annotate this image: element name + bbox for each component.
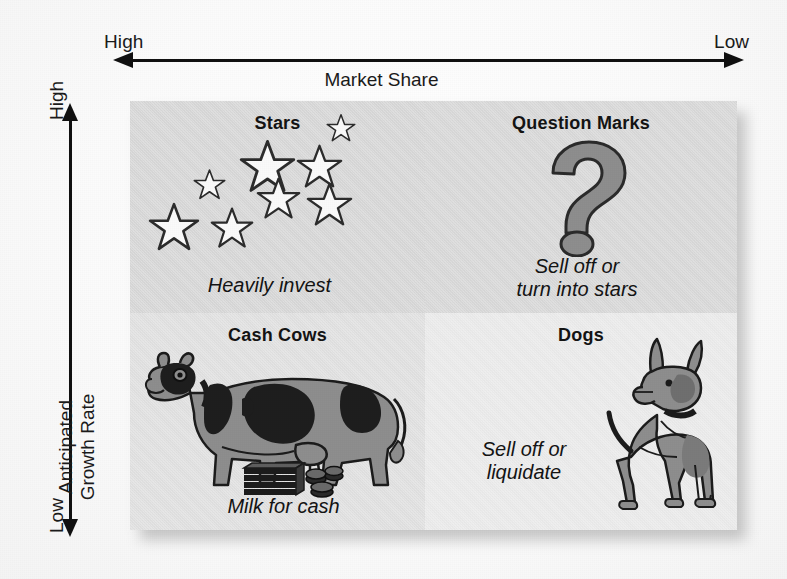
quadrant-caption-stars: Heavily invest — [130, 274, 417, 297]
growth-rate-axis: High Low Anticipated Growth Rate — [0, 95, 130, 545]
quadrant-caption-dogs: Sell off or liquidate — [439, 438, 609, 484]
quadrant-stars[interactable]: Stars — [130, 101, 425, 313]
growth-rate-axis-title: Anticipated Growth Rate — [55, 387, 99, 507]
star-icon — [148, 201, 200, 253]
star-icon — [306, 181, 353, 228]
market-share-high-label: High — [104, 31, 143, 53]
quadrant-caption-cash-cows: Milk for cash — [136, 495, 425, 518]
star-icon — [193, 168, 226, 201]
quadrant-dogs[interactable]: Dogs — [425, 313, 737, 530]
market-share-axis: High Low Market Share — [0, 0, 787, 101]
market-share-low-label: Low — [714, 31, 749, 53]
quadrant-question-marks[interactable]: Question Marks Sell off or turn into sta… — [425, 101, 737, 313]
quadrant-title-question-marks: Question Marks — [425, 113, 737, 134]
dog-icon — [591, 335, 725, 513]
cow-icon — [136, 337, 418, 502]
bcg-matrix: Stars — [130, 101, 737, 530]
quadrant-caption-question-marks: Sell off or turn into stars — [425, 255, 733, 301]
star-icon — [210, 206, 254, 250]
star-icon — [256, 176, 301, 221]
arrow-right-icon — [724, 52, 744, 68]
question-mark-icon — [533, 139, 629, 257]
market-share-axis-line — [131, 59, 737, 62]
market-share-axis-title-text: Market Share — [324, 69, 438, 91]
growth-rate-high-label: High — [46, 81, 68, 120]
star-icon — [326, 113, 356, 143]
market-share-axis-title: Market Share — [0, 69, 787, 91]
arrow-left-icon — [113, 52, 133, 68]
money-stack-icon — [244, 463, 304, 495]
quadrant-cash-cows[interactable]: Cash Cows — [130, 313, 425, 530]
